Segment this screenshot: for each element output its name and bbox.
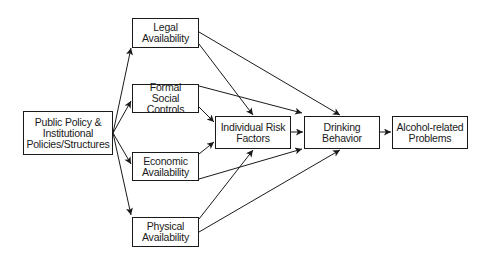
node-physical-availability-label: Physical Availability xyxy=(142,221,189,243)
node-economic-availability: Economic Availability xyxy=(132,152,199,181)
node-public-policy-label: Public Policy & Institutional Policies/S… xyxy=(26,117,109,150)
edge-formal-to-drinking xyxy=(199,86,302,113)
edge-economic-to-individual xyxy=(199,142,214,154)
edge-formal-to-individual xyxy=(199,107,214,122)
node-formal-social-controls: Formal Social Controls xyxy=(132,84,199,113)
edge-legal-to-individual xyxy=(199,44,253,115)
node-individual-risk-factors-label: Individual Risk Factors xyxy=(221,122,286,144)
node-alcohol-related-problems-label: Alcohol-related Problems xyxy=(396,122,463,144)
edge-physical-to-drinking xyxy=(199,150,340,232)
node-legal-availability: Legal Availability xyxy=(132,18,199,48)
edge-physical-to-individual xyxy=(199,150,253,219)
node-economic-availability-label: Economic Availability xyxy=(142,156,189,178)
node-formal-social-controls-label: Formal Social Controls xyxy=(135,82,196,115)
edge-policy-to-formal xyxy=(113,101,131,133)
edge-policy-to-legal xyxy=(113,48,131,133)
edge-policy-to-physical xyxy=(113,133,131,215)
node-individual-risk-factors: Individual Risk Factors xyxy=(215,116,291,149)
node-drinking-behavior: Drinking Behavior xyxy=(304,116,380,149)
edge-legal-to-drinking xyxy=(199,32,340,115)
node-physical-availability: Physical Availability xyxy=(132,217,199,247)
edge-policy-to-economic xyxy=(113,133,131,164)
node-alcohol-related-problems: Alcohol-related Problems xyxy=(392,116,468,149)
node-legal-availability-label: Legal Availability xyxy=(142,22,189,44)
node-public-policy: Public Policy & Institutional Policies/S… xyxy=(23,111,113,155)
node-drinking-behavior-label: Drinking Behavior xyxy=(322,122,362,144)
diagram-canvas: Public Policy & Institutional Policies/S… xyxy=(0,0,495,263)
